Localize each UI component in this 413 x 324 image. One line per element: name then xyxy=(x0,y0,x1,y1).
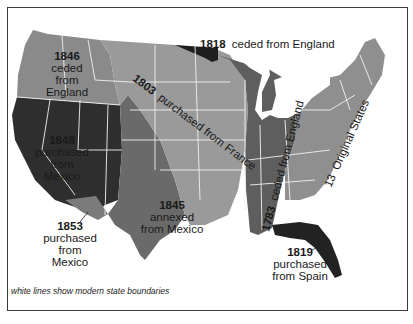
label-red-river-1818: 1818 ceded from England xyxy=(200,38,335,50)
label-line: purchased xyxy=(273,258,327,270)
label-year: 1846 xyxy=(54,50,80,62)
label-line: purchased xyxy=(43,232,97,244)
label-year: 1848 xyxy=(49,134,75,146)
label-line: from Mexico xyxy=(141,223,204,235)
label-line: from xyxy=(56,74,79,86)
label-year: 1845 xyxy=(159,199,185,211)
label-line: Mexico xyxy=(44,170,80,182)
label-line: purchased xyxy=(35,146,89,158)
label-line: England xyxy=(46,86,88,98)
label-year: 1853 xyxy=(57,220,83,232)
label-text: 1818 ceded from England xyxy=(200,38,335,50)
label-gadsden-1853: 1853 purchased from Mexico xyxy=(43,212,97,268)
label-year: 1818 xyxy=(200,38,226,50)
label-line: ceded from England xyxy=(232,38,335,50)
us-territorial-map: 1846 ceded from England 1818 ceded from … xyxy=(0,0,413,324)
label-year: 1819 xyxy=(287,246,313,258)
label-line: Mexico xyxy=(52,256,88,268)
label-line: ceded xyxy=(51,62,82,74)
label-line: annexed xyxy=(150,211,194,223)
label-line: from xyxy=(59,244,82,256)
label-line: from Spain xyxy=(272,270,328,282)
map-caption: white lines show modern state boundaries xyxy=(11,286,170,296)
label-line: from xyxy=(51,158,74,170)
